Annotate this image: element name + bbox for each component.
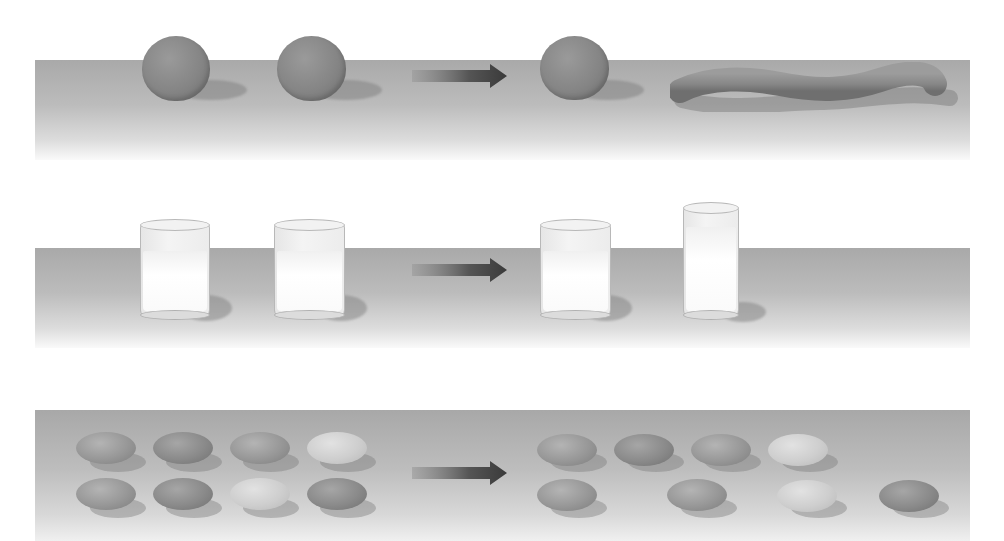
- coin: [307, 478, 367, 510]
- coin: [76, 432, 136, 464]
- short-wide-glass-2: [274, 222, 345, 318]
- right-arrow-icon: [412, 461, 507, 485]
- coin: [230, 432, 290, 464]
- coin: [153, 478, 213, 510]
- coin: [691, 434, 751, 466]
- short-wide-glass-3: [540, 222, 611, 318]
- clay-ball-2: [277, 36, 346, 101]
- coin: [537, 434, 597, 466]
- right-arrow-icon: [412, 258, 507, 282]
- coin: [614, 434, 674, 466]
- clay-ball-3: [540, 36, 609, 100]
- clay-ball-1: [142, 36, 210, 101]
- coin: [153, 432, 213, 464]
- coin: [768, 434, 828, 466]
- clay-snake: [670, 62, 960, 112]
- right-arrow-icon: [412, 64, 507, 88]
- tall-narrow-glass: [683, 205, 739, 318]
- coin: [230, 478, 290, 510]
- coin: [777, 480, 837, 512]
- coin: [879, 480, 939, 512]
- coin: [307, 432, 367, 464]
- short-wide-glass-1: [140, 222, 210, 318]
- coin: [667, 479, 727, 511]
- coin: [537, 479, 597, 511]
- coin: [76, 478, 136, 510]
